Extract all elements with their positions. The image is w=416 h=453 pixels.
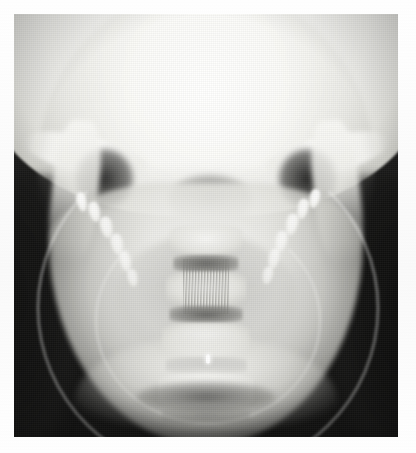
vertebral-body bbox=[170, 226, 243, 256]
tooth bbox=[261, 266, 275, 285]
incisor-roots bbox=[183, 259, 229, 314]
radiograph-canvas bbox=[14, 14, 398, 437]
document-page bbox=[0, 0, 416, 453]
tooth bbox=[75, 192, 89, 213]
radiopaque-marker bbox=[206, 354, 210, 363]
submental-shadow bbox=[137, 382, 275, 412]
radiograph-image bbox=[14, 14, 398, 437]
tooth bbox=[308, 189, 322, 210]
tooth bbox=[126, 268, 140, 287]
